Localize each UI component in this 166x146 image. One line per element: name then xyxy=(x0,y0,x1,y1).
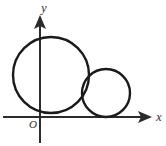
coordinate-diagram: y x O xyxy=(0,0,166,146)
origin-label: O xyxy=(29,118,37,130)
x-axis-label: x xyxy=(155,110,162,124)
geometry-figure: y x O xyxy=(0,0,166,146)
small-circle xyxy=(82,69,130,117)
y-axis-label: y xyxy=(40,1,47,15)
large-circle xyxy=(13,37,89,113)
